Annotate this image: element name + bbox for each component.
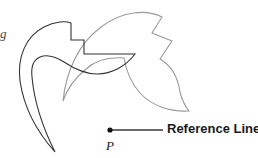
figure-canvas: Reference Line P g: [0, 0, 258, 158]
preimage-shape: [19, 22, 135, 152]
edge-text-fragment: g: [0, 26, 7, 41]
point-p-label: P: [105, 138, 114, 153]
center-of-rotation-point: [107, 127, 112, 132]
reference-line-label: Reference Line: [167, 121, 258, 136]
rotated-image-shape: [63, 12, 189, 111]
rotation-figure: Reference Line P g: [0, 0, 258, 158]
